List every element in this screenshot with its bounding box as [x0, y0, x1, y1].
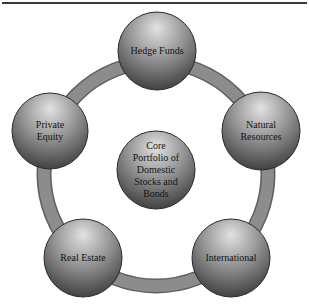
- sphere-natural-resources: [222, 92, 300, 170]
- sphere-real-estate: [44, 219, 122, 297]
- sphere-hedge-funds: [118, 12, 196, 90]
- sphere-private-equity: [12, 93, 88, 169]
- diagram-canvas: [0, 0, 309, 304]
- sphere-core-portfolio: [117, 131, 195, 209]
- sphere-international: [192, 219, 270, 297]
